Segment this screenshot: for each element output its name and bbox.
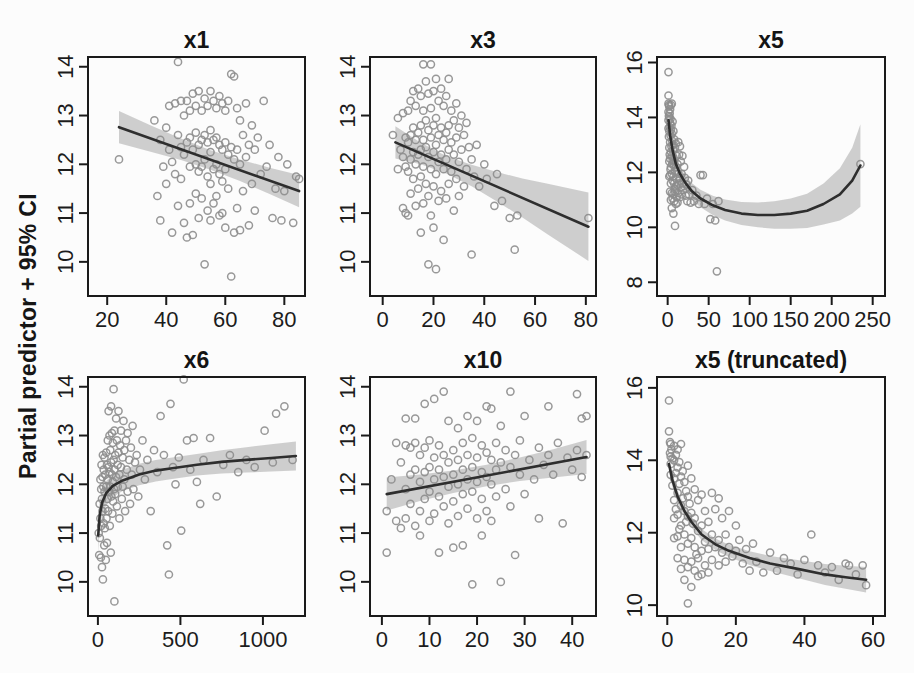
scatter-point	[453, 100, 460, 107]
scatter-point	[397, 525, 404, 532]
scatter-point	[393, 517, 400, 524]
scatter-point	[290, 219, 297, 226]
scatter-point	[493, 439, 500, 446]
scatter-point	[463, 119, 470, 126]
x-tick-label: 500	[162, 627, 199, 652]
x-tick-label: 10	[417, 627, 441, 652]
x-tick-label: 40	[792, 627, 816, 652]
scatter-point	[416, 532, 423, 539]
scatter-point	[180, 219, 187, 226]
scatter-point	[410, 175, 417, 182]
scatter-point	[397, 459, 404, 466]
scatter-point	[677, 544, 684, 551]
scatter-point	[705, 569, 712, 576]
scatter-point	[415, 185, 422, 192]
scatter-point	[681, 531, 688, 538]
y-tick-label: 12	[53, 152, 78, 176]
y-tick-label: 14	[53, 375, 78, 399]
scatter-point	[681, 163, 688, 170]
scatter-point	[488, 517, 495, 524]
scatter-point	[459, 542, 466, 549]
scatter-point	[421, 444, 428, 451]
scatter-point	[122, 508, 129, 515]
scatter-point	[169, 229, 176, 236]
scatter-point	[573, 391, 580, 398]
scatter-point	[432, 266, 439, 273]
scatter-point	[677, 440, 684, 447]
scatter-point	[422, 117, 429, 124]
scatter-point	[177, 175, 184, 182]
scatter-point	[497, 422, 504, 429]
scatter-point	[491, 202, 498, 209]
scatter-point	[139, 437, 146, 444]
scatter-point	[260, 97, 267, 104]
scatter-point	[559, 520, 566, 527]
scatter-point	[688, 583, 695, 590]
y-tick-label: 10	[622, 215, 647, 239]
scatter-point	[207, 434, 214, 441]
scatter-point	[521, 491, 528, 498]
scatter-point	[150, 447, 157, 454]
y-tick-label: 11	[53, 522, 78, 545]
scatter-point	[98, 564, 105, 571]
scatter-point	[222, 107, 229, 114]
scatter-point	[234, 105, 241, 112]
scatter-point	[440, 102, 447, 109]
scatter-point	[732, 522, 739, 529]
y-tick-label: 10	[53, 570, 78, 594]
scatter-point	[236, 117, 243, 124]
scatter-point	[478, 495, 485, 502]
scatter-point	[178, 527, 185, 534]
scatter-point	[688, 475, 695, 482]
scatter-point	[719, 515, 726, 522]
scatter-point	[746, 567, 753, 574]
scatter-point	[160, 451, 167, 458]
scatter-point	[497, 578, 504, 585]
scatter-point	[427, 61, 434, 68]
scatter-point	[127, 444, 134, 451]
scatter-point	[127, 500, 134, 507]
scatter-point	[133, 451, 140, 458]
scatter-point	[219, 178, 226, 185]
x-tick-label: 0	[377, 307, 389, 332]
scatter-point	[483, 449, 490, 456]
scatter-point	[431, 454, 438, 461]
scatter-point	[407, 190, 414, 197]
scatter-point	[261, 427, 268, 434]
y-tick-label: 12	[622, 160, 647, 184]
y-tick-label: 8	[622, 276, 647, 288]
x-tick-label: 80	[272, 307, 296, 332]
y-tick-label: 14	[53, 55, 78, 79]
x-tick-label: 20	[465, 627, 489, 652]
scatter-point	[186, 200, 193, 207]
scatter-point	[115, 156, 122, 163]
scatter-point	[465, 144, 472, 151]
scatter-point	[688, 535, 695, 542]
y-tick-label: 13	[335, 103, 360, 127]
y-tick-label: 11	[335, 202, 360, 225]
scatter-point	[160, 163, 167, 170]
scatter-point	[665, 92, 672, 99]
scatter-point	[435, 549, 442, 556]
scatter-point	[421, 400, 428, 407]
scatter-point	[512, 451, 519, 458]
scatter-point	[248, 122, 255, 129]
scatter-point	[174, 58, 181, 65]
scatter-point	[427, 212, 434, 219]
scatter-point	[122, 437, 129, 444]
panel-x10: 0102030401011121314x10	[312, 334, 602, 656]
scatter-point	[698, 491, 705, 498]
scatter-point	[427, 105, 434, 112]
scatter-point	[440, 451, 447, 458]
scatter-point	[417, 173, 424, 180]
scatter-point	[135, 493, 142, 500]
scatter-point	[445, 520, 452, 527]
scatter-point	[426, 437, 433, 444]
scatter-point	[554, 439, 561, 446]
scatter-point	[111, 598, 118, 605]
panel-x6: 050010001011121314x6	[30, 334, 311, 656]
scatter-point	[459, 491, 466, 498]
scatter-point	[204, 207, 211, 214]
scatter-point	[412, 415, 419, 422]
scatter-point	[275, 153, 282, 160]
